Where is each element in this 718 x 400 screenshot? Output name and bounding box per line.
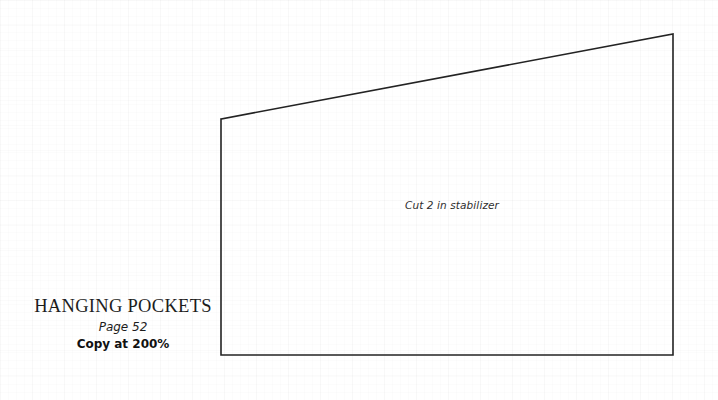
title-block: HANGING POCKETS Page 52 Copy at 200%: [28, 296, 218, 352]
pattern-sheet-page: Cut 2 in stabilizer HANGING POCKETS Page…: [0, 0, 718, 400]
pattern-title: HANGING POCKETS: [28, 296, 218, 317]
page-number-label: Page 52: [28, 321, 218, 335]
pattern-piece-outline: [221, 34, 673, 355]
cut-instruction-label: Cut 2 in stabilizer: [402, 199, 502, 211]
copy-scale-instruction: Copy at 200%: [28, 338, 218, 352]
